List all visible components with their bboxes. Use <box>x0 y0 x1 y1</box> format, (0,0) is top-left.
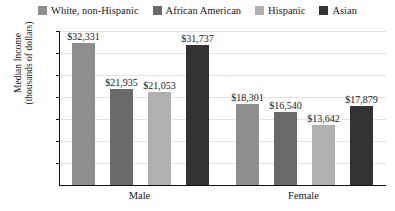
bar-value-label: $13,642 <box>307 113 340 124</box>
legend-entry[interactable]: White, non-Hispanic <box>38 5 138 16</box>
y-axis-title-line2: (thousands of dollars) <box>24 22 36 105</box>
legend-swatch-icon <box>153 6 162 15</box>
legend-label: Asian <box>332 5 357 16</box>
bar[interactable]: $21,053 <box>148 92 171 185</box>
legend-swatch-icon <box>319 6 328 15</box>
legend-entry[interactable]: Hispanic <box>255 5 305 16</box>
bar-chart-figure: White, non-HispanicAfrican AmericanHispa… <box>0 0 395 211</box>
bar-value-label: $21,053 <box>143 80 176 91</box>
legend-label: White, non-Hispanic <box>51 5 138 16</box>
legend-entry[interactable]: Asian <box>319 5 357 16</box>
bar[interactable]: $21,935 <box>110 89 133 186</box>
x-group-label: Male <box>129 190 151 202</box>
x-group-label: Female <box>288 190 319 202</box>
legend-label: Hispanic <box>268 5 305 16</box>
bar-series-container: $32,331$21,935$21,053$31,737$18,301$16,5… <box>60 31 386 185</box>
legend-swatch-icon <box>255 6 264 15</box>
y-axis-title: Median Income (thousands of dollars) <box>11 0 37 143</box>
bar[interactable]: $31,737 <box>186 45 209 185</box>
bar-value-label: $32,331 <box>67 31 100 42</box>
plot-area: 5101520253035 $32,331$21,935$21,053$31,7… <box>59 31 386 186</box>
bar[interactable]: $18,301 <box>236 104 259 185</box>
bar-value-label: $17,879 <box>345 94 378 105</box>
legend-swatch-icon <box>38 6 47 15</box>
bar-value-label: $16,540 <box>269 100 302 111</box>
bar[interactable]: $13,642 <box>312 125 335 185</box>
bar-value-label: $31,737 <box>181 33 214 44</box>
bar-value-label: $18,301 <box>231 92 264 103</box>
bar[interactable]: $17,879 <box>350 106 373 185</box>
chart-legend: White, non-HispanicAfrican AmericanHispa… <box>0 2 395 18</box>
legend-entry[interactable]: African American <box>153 5 242 16</box>
bar[interactable]: $32,331 <box>72 43 95 185</box>
legend-label: African American <box>166 5 242 16</box>
y-axis-title-line1: Median Income <box>13 33 25 93</box>
bar-value-label: $21,935 <box>105 77 138 88</box>
bar[interactable]: $16,540 <box>274 112 297 185</box>
